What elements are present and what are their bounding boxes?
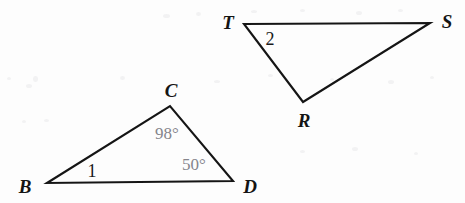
vertex-label-c: C bbox=[165, 81, 178, 100]
vertex-label-d: D bbox=[243, 177, 257, 196]
vertex-label-b: B bbox=[19, 177, 32, 196]
geometry-figure: B C D T S R 1 2 98° 50° bbox=[0, 0, 465, 203]
angle-2-at-t: 2 bbox=[266, 30, 275, 48]
vertex-label-s: S bbox=[442, 12, 453, 31]
vertex-label-r: R bbox=[298, 111, 311, 130]
angle-1-at-b: 1 bbox=[88, 162, 97, 180]
angle-measure-at-c: 98° bbox=[155, 125, 179, 142]
vertex-label-t: T bbox=[222, 13, 234, 32]
angle-measure-at-d: 50° bbox=[182, 156, 206, 173]
